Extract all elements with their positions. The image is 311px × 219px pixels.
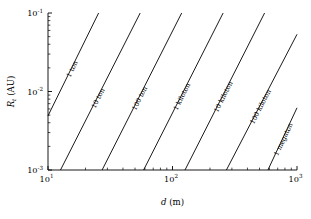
plot-background	[0, 0, 311, 219]
x-axis-title: d (m)	[161, 197, 184, 207]
y-axis-title: Rt (AU)	[6, 76, 17, 109]
loglog-plot: 1 ton10 ton100 ton1 kiloton10 kiloton100…	[0, 0, 311, 219]
chart-figure: 1 ton10 ton100 ton1 kiloton10 kiloton100…	[0, 0, 311, 219]
